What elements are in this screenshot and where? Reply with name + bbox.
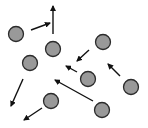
particle-circle	[96, 35, 111, 50]
velocity-arrow-icon	[66, 66, 77, 72]
velocity-arrow-icon	[31, 23, 50, 30]
particle-circle	[23, 56, 38, 71]
velocity-arrow-icon	[77, 50, 89, 61]
particle-circle	[44, 94, 59, 109]
particle-circle	[95, 103, 110, 118]
diagram-canvas	[0, 0, 148, 128]
particle-circle	[81, 72, 96, 87]
particles	[9, 27, 139, 118]
velocity-arrow-icon	[24, 108, 42, 120]
particle-circle	[46, 42, 61, 57]
particle-diagram	[0, 0, 148, 128]
velocity-arrow-icon	[11, 79, 23, 106]
particle-circle	[124, 80, 139, 95]
particle-circle	[9, 27, 24, 42]
velocity-arrow-icon	[108, 64, 120, 76]
